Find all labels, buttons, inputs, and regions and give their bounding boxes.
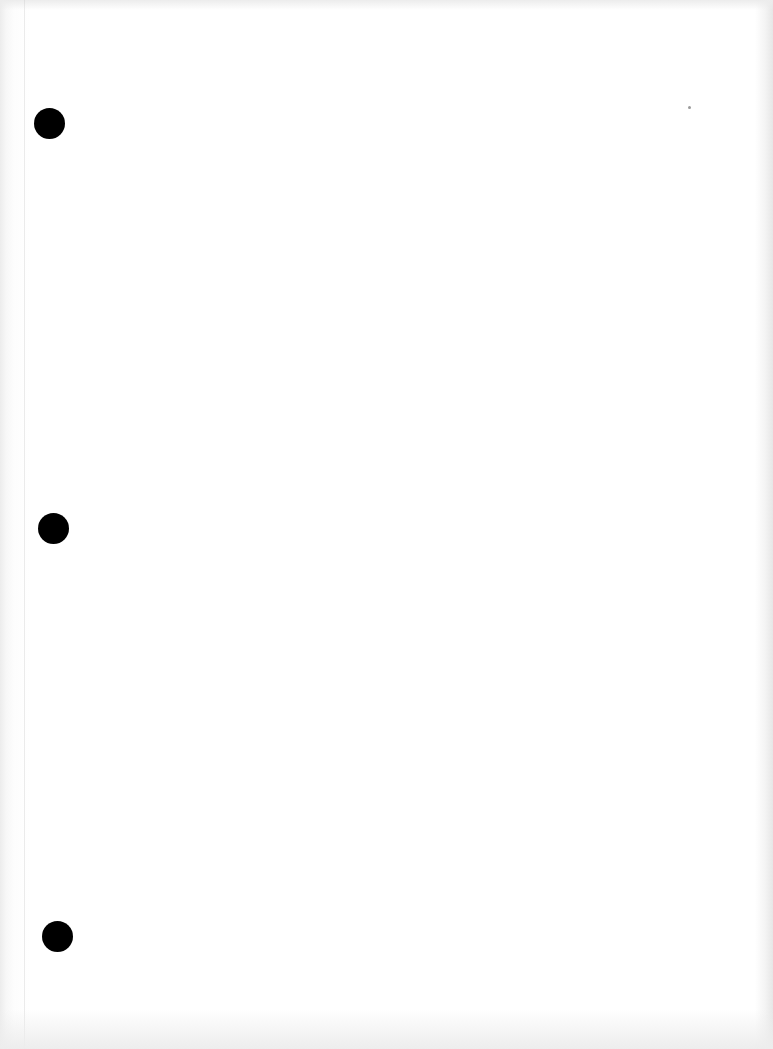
dust-speck: [688, 106, 691, 109]
blank-page: [0, 0, 773, 1049]
punch-hole-bottom: [42, 921, 73, 952]
punch-hole-middle: [38, 513, 69, 544]
scan-bottom-edge-shadow: [0, 1009, 773, 1049]
left-margin-shading: [24, 0, 25, 1049]
punch-hole-top: [34, 108, 65, 139]
scan-top-edge-shadow: [0, 0, 773, 10]
